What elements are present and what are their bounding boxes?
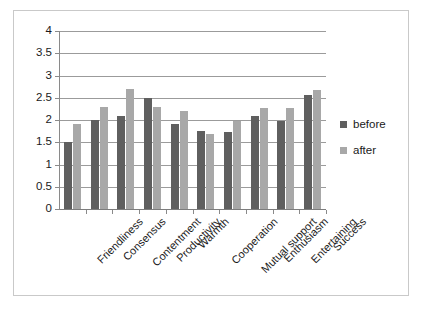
x-tick-mark xyxy=(326,210,327,214)
x-tick-mark xyxy=(112,210,113,214)
bars-layer xyxy=(59,31,326,209)
x-tick-label: Enthusiasm xyxy=(282,216,330,264)
x-tick-mark xyxy=(86,210,87,214)
y-tick-label: 4 xyxy=(16,25,52,37)
bar-before xyxy=(251,116,259,209)
bar-before xyxy=(171,124,179,209)
x-tick-label: Consensus xyxy=(121,216,168,263)
bar-before xyxy=(224,132,232,209)
bar-after xyxy=(233,121,241,209)
x-tick-mark xyxy=(219,210,220,214)
y-tick-label: 1 xyxy=(16,159,52,171)
bar-before xyxy=(64,142,72,209)
bar-group xyxy=(139,31,166,209)
x-tick-label: Productivity xyxy=(175,216,223,264)
bar-before xyxy=(117,116,125,209)
x-tick-label: Contentment xyxy=(150,216,202,268)
y-tick-label: 3 xyxy=(16,70,52,82)
y-axis-tick-labels: 00.511.522.533.54 xyxy=(14,11,52,295)
plot-wrapper: 00.511.522.533.54 FriendlinessConsensusC… xyxy=(14,11,408,295)
bar-after xyxy=(260,108,268,209)
x-tick-mark xyxy=(166,210,167,214)
bar-after xyxy=(206,134,214,209)
y-tick-label: 0 xyxy=(16,203,52,215)
bar-after xyxy=(126,89,134,209)
legend-item[interactable]: after xyxy=(340,145,406,157)
bar-group xyxy=(246,31,273,209)
y-tick-label: 2.5 xyxy=(16,92,52,104)
bar-group xyxy=(299,31,326,209)
bar-after xyxy=(100,107,108,209)
bar-group xyxy=(112,31,139,209)
x-tick-mark xyxy=(193,210,194,214)
x-tick-mark xyxy=(299,210,300,214)
bar-group xyxy=(193,31,220,209)
chart-legend: beforeafter xyxy=(340,119,406,170)
x-tick-label: Warmth xyxy=(196,216,231,251)
x-tick-label: Success xyxy=(331,216,368,253)
bar-group xyxy=(219,31,246,209)
bar-group xyxy=(59,31,86,209)
bar-after xyxy=(180,111,188,209)
bar-before xyxy=(144,98,152,209)
bar-before xyxy=(277,121,285,209)
bar-after xyxy=(286,108,294,209)
x-tick-label: Friendliness xyxy=(96,216,146,266)
legend-label: after xyxy=(353,145,376,157)
bar-after xyxy=(313,90,321,209)
legend-swatch-icon xyxy=(340,121,347,128)
bar-after xyxy=(153,107,161,209)
legend-label: before xyxy=(353,119,386,131)
bar-group xyxy=(273,31,300,209)
x-tick-label: Mutual support xyxy=(260,216,319,275)
y-tick-label: 0.5 xyxy=(16,181,52,193)
x-tick-mark xyxy=(139,210,140,214)
legend-swatch-icon xyxy=(340,147,347,154)
x-tick-label: Entertaining xyxy=(309,216,358,265)
x-tick-label: Cooperation xyxy=(229,216,279,266)
x-tick-mark xyxy=(273,210,274,214)
x-tick-mark xyxy=(246,210,247,214)
legend-item[interactable]: before xyxy=(340,119,406,131)
bar-before xyxy=(91,120,99,209)
bar-group xyxy=(86,31,113,209)
bar-after xyxy=(73,124,81,209)
bar-before xyxy=(197,131,205,209)
bar-before xyxy=(304,95,312,209)
bar-group xyxy=(166,31,193,209)
y-tick-label: 2 xyxy=(16,114,52,126)
y-tick-label: 1.5 xyxy=(16,136,52,148)
chart-frame: 00.511.522.533.54 FriendlinessConsensusC… xyxy=(13,10,409,296)
y-tick-mark xyxy=(55,209,59,210)
y-tick-label: 3.5 xyxy=(16,47,52,59)
